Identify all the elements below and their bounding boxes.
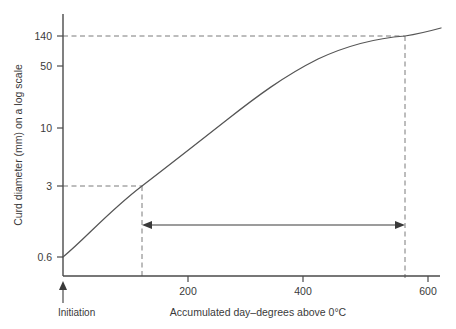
curd-growth-curve [63, 28, 441, 257]
y-axis-title: Curd diameter (mm) on a log scale [12, 64, 24, 226]
curd-growth-line-chart: 140 50 10 3 0.6 200 400 600 [0, 0, 456, 329]
x-axis-title: Accumulated day–degrees above 0°C [170, 306, 347, 318]
y-tick-label-10: 10 [40, 122, 52, 134]
x-tick-label-200: 200 [179, 285, 197, 297]
span-arrow-head-left [142, 221, 152, 229]
curve-group [63, 28, 441, 257]
span-arrow-annotation [142, 221, 405, 229]
chart-figure: 140 50 10 3 0.6 200 400 600 [0, 0, 456, 329]
initiation-marker: Initiation [58, 281, 95, 318]
x-tick-label-400: 400 [294, 285, 312, 297]
axes [63, 14, 440, 276]
x-axis-tick-labels: 200 400 600 [179, 285, 437, 297]
x-tick-label-600: 600 [419, 285, 437, 297]
y-axis-ticks [57, 36, 63, 257]
span-arrow-head-right [395, 221, 405, 229]
y-tick-label-3: 3 [46, 180, 52, 192]
dashed-guides [63, 36, 405, 278]
y-tick-label-06: 0.6 [37, 251, 52, 263]
y-tick-label-140: 140 [34, 30, 52, 42]
initiation-label: Initiation [58, 307, 95, 318]
y-axis-tick-labels: 140 50 10 3 0.6 [34, 30, 52, 263]
initiation-arrow-head [59, 281, 67, 290]
y-tick-label-50: 50 [40, 60, 52, 72]
x-axis-ticks [188, 276, 428, 282]
